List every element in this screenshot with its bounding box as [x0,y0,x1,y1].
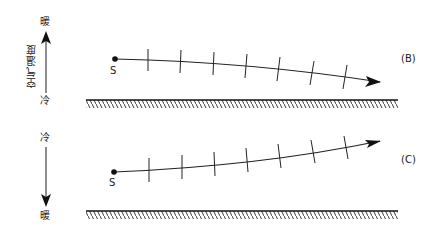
diagram-canvas [0,0,437,239]
source-label-c: S [109,178,115,188]
trajectory-b [112,49,381,89]
ground-b [86,100,398,108]
arrowhead-icon [365,76,381,87]
panel-label-c: (C) [401,155,416,165]
lower-temperature-axis-arrow [41,147,51,207]
source-label-b: S [110,66,116,76]
lower-axis-cold-label: 冷 [40,133,50,143]
source-point-c [111,169,117,175]
trajectory-c [111,136,381,182]
upper-temperature-axis-arrow [41,31,51,93]
lower-axis-warm-label: 暖 [40,211,50,221]
ground-c [86,211,398,219]
upper-axis-warm-label: 暖 [40,17,50,27]
axis-title-air-temperature: 空气温度 [24,44,39,88]
upper-axis-cold-label: 冷 [40,96,50,106]
panel-label-b: (B) [401,54,416,64]
source-point-b [112,56,118,62]
